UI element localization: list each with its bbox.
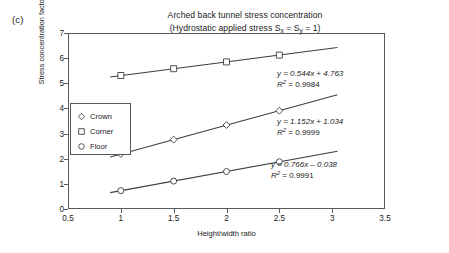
y-tick-label: 2 bbox=[42, 154, 64, 163]
legend-label: Crown bbox=[90, 112, 112, 121]
annotation-crown-fit: y = 1.152x + 1.034 R2 = 0.9999 bbox=[277, 116, 343, 139]
title-line2-post: = 1) bbox=[303, 23, 321, 33]
data-point-crown bbox=[276, 107, 283, 114]
x-tick-mark bbox=[121, 209, 122, 213]
x-tick-label: 1 bbox=[101, 214, 141, 223]
annotation-floor-equation: y = 0.766x – 0.038 bbox=[271, 159, 337, 170]
data-point-crown bbox=[223, 122, 230, 129]
chart-title: Arched back tunnel stress concentration … bbox=[80, 9, 410, 35]
data-point-corner bbox=[118, 72, 124, 78]
annotation-floor-r2: R2 = 0.9991 bbox=[271, 170, 337, 182]
r2-value: = 0.9984 bbox=[286, 80, 320, 89]
y-tick-mark bbox=[64, 134, 68, 135]
annotation-corner-equation: y = 0.544x + 4.763 bbox=[277, 68, 343, 79]
annotation-corner-fit: y = 0.544x + 4.763 R2 = 0.9984 bbox=[277, 68, 343, 91]
annotation-corner-r2: R2 = 0.9984 bbox=[277, 79, 343, 91]
legend-item-crown: Crown bbox=[77, 109, 130, 123]
data-point-crown bbox=[170, 136, 177, 143]
data-point-corner bbox=[276, 52, 282, 58]
x-tick-label: 3 bbox=[312, 214, 352, 223]
y-tick-mark bbox=[64, 83, 68, 84]
data-point-floor bbox=[224, 169, 230, 175]
y-tick-mark bbox=[64, 108, 68, 109]
x-tick-mark bbox=[279, 209, 280, 213]
square-marker bbox=[77, 127, 86, 136]
chart-title-line-1: Arched back tunnel stress concentration bbox=[80, 9, 410, 22]
x-tick-label: 3.5 bbox=[365, 214, 405, 223]
y-tick-label: 3 bbox=[42, 129, 64, 138]
x-axis-tick-labels: 0.511.522.533.5 bbox=[68, 209, 385, 229]
data-point-floor bbox=[171, 178, 177, 184]
y-axis-label: Stress concentration factor bbox=[37, 0, 46, 101]
legend-item-corner: Corner bbox=[77, 124, 130, 138]
r2-exponent: 2 bbox=[283, 79, 286, 85]
r2-value: = 0.9991 bbox=[280, 171, 314, 180]
annotation-floor-fit: y = 0.766x – 0.038 R2 = 0.9991 bbox=[271, 159, 337, 182]
legend-box: CrownCornerFloor bbox=[70, 103, 131, 155]
annotation-crown-equation: y = 1.152x + 1.034 bbox=[277, 116, 343, 127]
panel-label: (c) bbox=[12, 14, 24, 25]
legend-label: Floor bbox=[90, 142, 107, 151]
y-tick-label: 1 bbox=[42, 179, 64, 188]
y-tick-label: 4 bbox=[42, 104, 64, 113]
r2-exponent: 2 bbox=[277, 170, 280, 176]
x-tick-label: 2 bbox=[207, 214, 247, 223]
y-tick-mark bbox=[64, 184, 68, 185]
data-point-floor bbox=[118, 188, 124, 194]
diamond-marker bbox=[77, 112, 86, 121]
title-line2-pre: (Hydrostatic applied stress S bbox=[170, 23, 281, 33]
y-tick-mark bbox=[64, 209, 68, 210]
y-tick-mark bbox=[64, 33, 68, 34]
x-axis-label: Height/width ratio bbox=[68, 229, 385, 238]
data-point-corner bbox=[171, 66, 177, 72]
chart-figure: (c) Arched back tunnel stress concentrat… bbox=[0, 0, 449, 253]
title-line2-mid: = S bbox=[284, 23, 300, 33]
x-tick-mark bbox=[332, 209, 333, 213]
r2-symbol: R bbox=[277, 128, 283, 137]
x-tick-label: 1.5 bbox=[154, 214, 194, 223]
x-tick-mark bbox=[227, 209, 228, 213]
data-point-corner bbox=[224, 59, 230, 65]
r2-value: = 0.9999 bbox=[286, 128, 320, 137]
r2-exponent: 2 bbox=[283, 127, 286, 133]
y-tick-mark bbox=[64, 58, 68, 59]
annotation-crown-r2: R2 = 0.9999 bbox=[277, 127, 343, 139]
y-tick-label: 0 bbox=[42, 205, 64, 214]
legend-label: Corner bbox=[90, 127, 113, 136]
x-tick-label: 0.5 bbox=[48, 214, 88, 223]
legend-item-floor: Floor bbox=[77, 139, 130, 153]
r2-symbol: R bbox=[277, 80, 283, 89]
y-tick-mark bbox=[64, 159, 68, 160]
circle-marker bbox=[77, 142, 86, 151]
x-tick-label: 2.5 bbox=[259, 214, 299, 223]
r2-symbol: R bbox=[271, 171, 277, 180]
x-tick-mark bbox=[174, 209, 175, 213]
